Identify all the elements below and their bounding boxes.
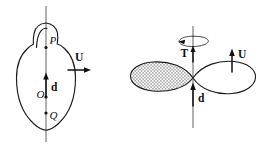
right-vector-u-label: U xyxy=(238,48,247,60)
right-vector-d-arrowhead xyxy=(190,83,196,91)
point-q-marker xyxy=(44,111,47,114)
left-vector-d-arrowhead xyxy=(43,73,49,80)
left-vector-u-arrowhead xyxy=(84,67,91,72)
point-p-marker xyxy=(44,46,47,49)
right-panel: T d U xyxy=(131,26,256,128)
point-p-label: P xyxy=(49,34,57,46)
left-panel: P O Q d U xyxy=(17,6,92,142)
physics-diagram: P O Q d U xyxy=(0,0,273,147)
right-lobe-open xyxy=(193,61,256,94)
left-vector-u-label: U xyxy=(75,51,84,63)
right-vector-t-label: T xyxy=(181,47,189,59)
right-vector-u-arrowhead xyxy=(229,49,235,57)
point-q-label: Q xyxy=(50,109,58,121)
left-bulge-inner-arc xyxy=(37,28,48,47)
left-lobe-stippled xyxy=(131,62,194,91)
figure-container: P O Q d U xyxy=(0,0,273,147)
point-o-label: O xyxy=(37,88,45,100)
left-vector-d-label: d xyxy=(51,81,58,93)
right-vector-d-label: d xyxy=(198,92,205,104)
